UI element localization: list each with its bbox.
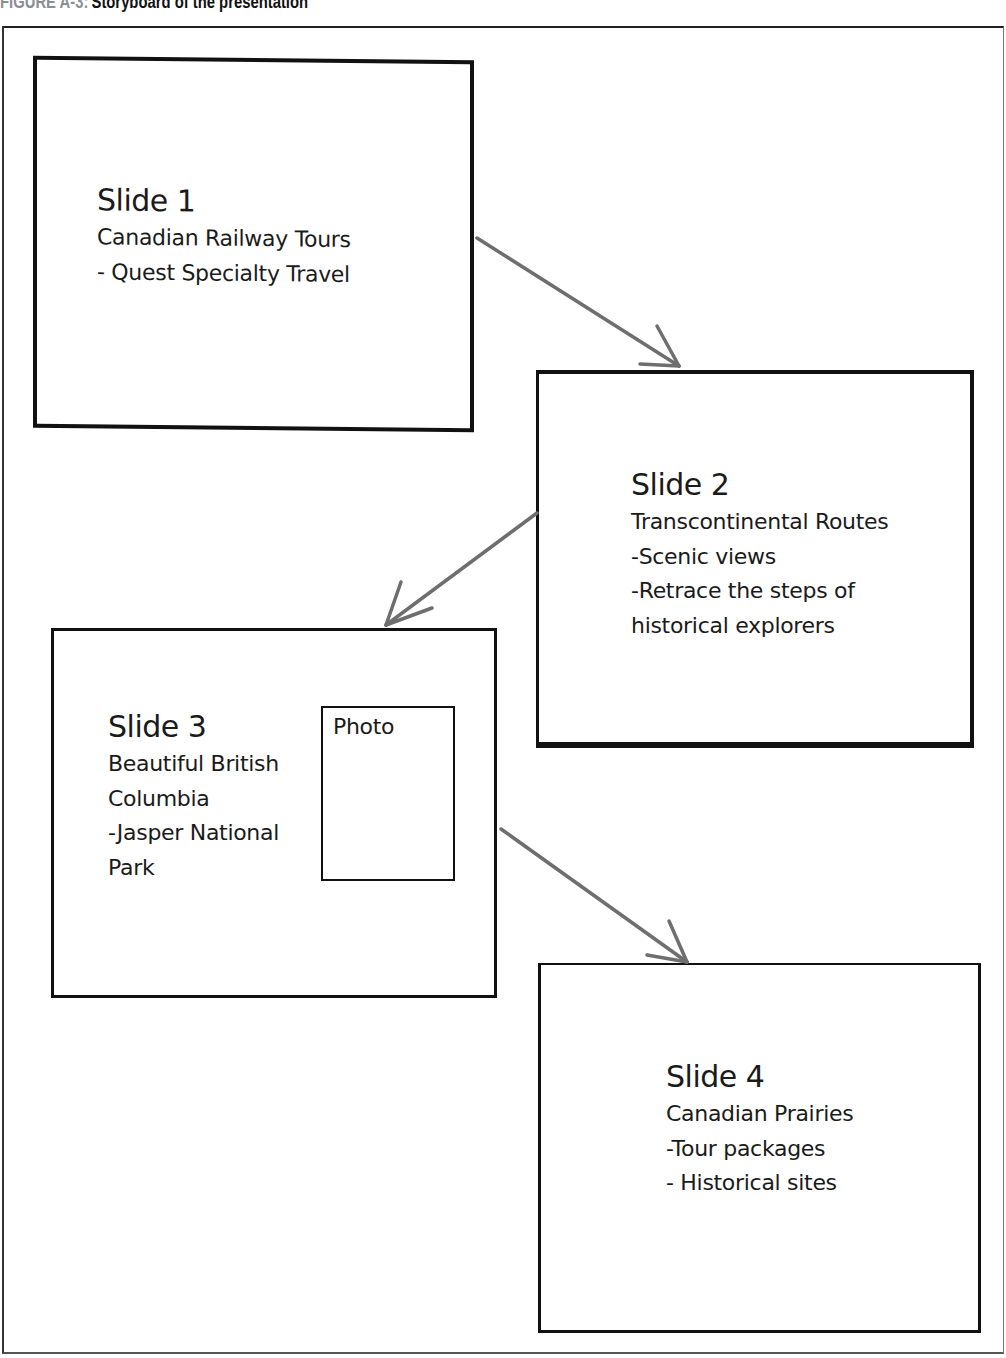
storyboard-slide-1: Slide 1 Canadian Railway Tours - Quest S… bbox=[33, 56, 474, 433]
slide-3-line: Park bbox=[108, 851, 279, 886]
figure-caption: FIGURE A-3:Storyboard of the presentatio… bbox=[0, 0, 308, 13]
storyboard-slide-3: Slide 3 Beautiful British Columbia -Jasp… bbox=[51, 628, 497, 998]
slide-2-content: Slide 2 Transcontinental Routes -Scenic … bbox=[631, 467, 888, 643]
slide-3-line: Columbia bbox=[108, 782, 279, 817]
figure-title: Storyboard of the presentation bbox=[91, 0, 308, 12]
slide-1-title: Slide 1 bbox=[97, 182, 351, 221]
storyboard-slide-4: Slide 4 Canadian Prairies -Tour packages… bbox=[538, 963, 981, 1333]
slide-2-line: Transcontinental Routes bbox=[631, 505, 888, 540]
photo-label: Photo bbox=[333, 714, 394, 739]
slide-3-content: Slide 3 Beautiful British Columbia -Jasp… bbox=[108, 709, 279, 885]
slide-1-content: Slide 1 Canadian Railway Tours - Quest S… bbox=[97, 182, 351, 292]
slide-2-title: Slide 2 bbox=[631, 467, 888, 503]
figure-label: FIGURE A-3: bbox=[0, 0, 88, 12]
photo-placeholder: Photo bbox=[321, 706, 455, 881]
storyboard-slide-2: Slide 2 Transcontinental Routes -Scenic … bbox=[536, 370, 974, 748]
slide-3-line: Beautiful British bbox=[108, 747, 279, 782]
slide-3-title: Slide 3 bbox=[108, 709, 279, 745]
slide-2-line: historical explorers bbox=[631, 609, 888, 644]
slide-2-line: -Scenic views bbox=[631, 540, 888, 575]
slide-4-content: Slide 4 Canadian Prairies -Tour packages… bbox=[666, 1059, 853, 1201]
slide-4-line: -Tour packages bbox=[666, 1132, 853, 1167]
slide-3-line: -Jasper National bbox=[108, 816, 279, 851]
slide-4-title: Slide 4 bbox=[666, 1059, 853, 1095]
slide-2-line: -Retrace the steps of bbox=[631, 574, 888, 609]
slide-1-line: Canadian Railway Tours bbox=[97, 220, 351, 257]
slide-1-line: - Quest Specialty Travel bbox=[97, 255, 351, 292]
slide-4-line: Canadian Prairies bbox=[666, 1097, 853, 1132]
slide-4-line: - Historical sites bbox=[666, 1166, 853, 1201]
